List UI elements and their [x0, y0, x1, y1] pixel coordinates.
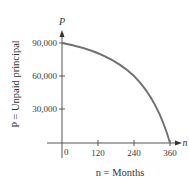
y-axis-variable: P	[58, 16, 65, 27]
principal-curve	[62, 43, 170, 143]
x-axis-title: n = Months	[96, 167, 145, 178]
x-axis-variable: n	[183, 137, 188, 148]
chart: 90,000 60,000 30,000 0 120 240 360 P n n…	[0, 0, 189, 178]
y-axis-title: P = Unpaid principal	[10, 40, 21, 128]
y-tick-label-90000: 90,000	[32, 38, 57, 48]
y-axis-arrow-icon	[60, 30, 65, 37]
x-tick-label-360: 360	[163, 148, 177, 158]
x-tick-label-120: 120	[91, 148, 105, 158]
y-tick-label-30000: 30,000	[32, 104, 57, 114]
x-tick-label-0: 0	[64, 147, 69, 157]
y-tick-label-60000: 60,000	[32, 71, 57, 81]
x-tick-label-240: 240	[127, 148, 141, 158]
x-axis-arrow-icon	[175, 141, 182, 146]
